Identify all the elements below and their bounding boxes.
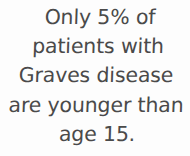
fact-statement: Only 5% of patients with Graves disease … <box>0 3 190 149</box>
fact-line-3: Graves disease <box>0 61 190 90</box>
fact-line-4: are younger than <box>0 91 190 120</box>
fact-line-1: Only 5% of <box>0 3 190 32</box>
fact-line-2: patients with <box>0 32 190 61</box>
fact-line-5: age 15. <box>0 120 190 149</box>
fact-card: Only 5% of patients with Graves disease … <box>0 0 190 156</box>
